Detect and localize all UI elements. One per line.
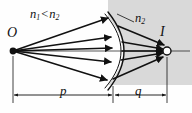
ray-diagram-canvas xyxy=(0,0,192,113)
optics-ray-diagram-figure: n1<n2 n2 O I p q xyxy=(0,0,192,113)
label-object-point: O xyxy=(7,26,17,40)
label-medium-n2: n2 xyxy=(135,12,145,25)
label-n2-subscript: 2 xyxy=(55,13,59,22)
label-medium-n2-subscript: 2 xyxy=(141,17,145,26)
label-relation-operator: < xyxy=(40,7,49,21)
incident-ray-group xyxy=(13,18,112,80)
incident-ray-lower-outer xyxy=(13,51,107,80)
label-image-distance-q: q xyxy=(135,84,142,97)
label-object-distance-p: p xyxy=(60,84,67,97)
incident-ray-upper-outer xyxy=(13,18,108,51)
incident-ray-lower-inner xyxy=(13,51,111,62)
label-index-comparison: n1<n2 xyxy=(30,8,59,21)
image-point-marker xyxy=(163,47,171,55)
object-point-marker xyxy=(10,48,17,55)
label-image-point: I xyxy=(160,25,165,39)
